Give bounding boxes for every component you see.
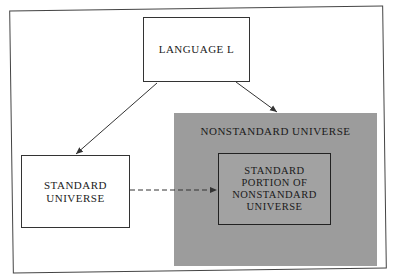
arrow-language-to-nonstandard bbox=[236, 82, 277, 112]
arrows-layer bbox=[0, 0, 393, 279]
arrow-language-to-standard bbox=[76, 83, 157, 154]
